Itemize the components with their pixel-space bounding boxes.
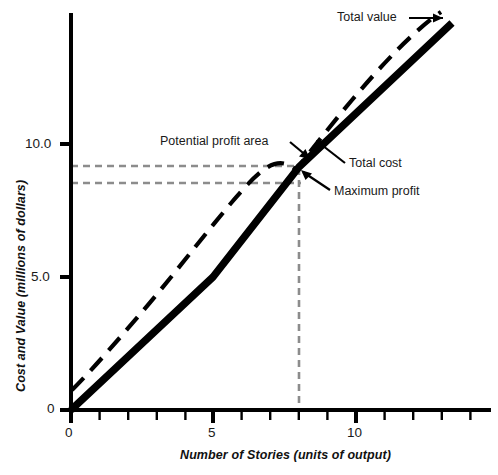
y-tick-label-0: 0 — [47, 401, 55, 416]
arrowhead-maximum-profit — [301, 170, 312, 180]
annotation-potential-profit-area: Potential profit area — [160, 134, 268, 148]
y-tick-label-10: 10.0 — [25, 136, 51, 151]
chart-plot-area — [0, 0, 498, 475]
series-total-cost — [72, 12, 441, 390]
y-axis-title: Cost and Value (millions of dollars) — [14, 180, 28, 392]
x-tick-label-0: 0 — [65, 425, 73, 440]
x-tick-label-10: 10 — [347, 425, 362, 440]
annotation-total-cost: Total cost — [349, 156, 402, 170]
annotation-total-value: Total value — [337, 10, 397, 24]
arrowhead-total-value — [433, 14, 443, 23]
x-tick-label-5: 5 — [208, 425, 216, 440]
x-axis-title: Number of Stories (units of output) — [180, 448, 391, 462]
chart-figure: 10.0 5.0 0 0 5 10 Cost and Value (millio… — [0, 0, 498, 475]
series-total-value — [71, 23, 452, 410]
annotation-maximum-profit: Maximum profit — [334, 184, 419, 198]
y-tick-label-5: 5.0 — [31, 269, 50, 284]
